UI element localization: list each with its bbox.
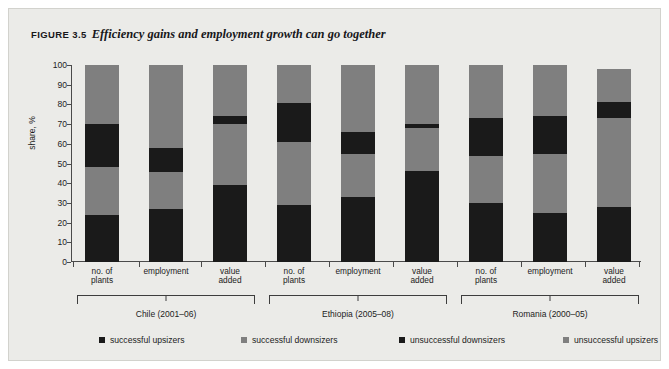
y-axis-label: share, % (27, 93, 37, 173)
stacked-bar (469, 65, 503, 262)
stacked-bar (149, 65, 183, 262)
legend-swatch-icon (99, 337, 105, 343)
chart-legend: successful upsizerssuccessful downsizers… (31, 335, 645, 351)
figure-caption: Efficiency gains and employment growth c… (92, 27, 386, 41)
legend-item: successful upsizers (99, 335, 185, 345)
x-axis-labels: no. ofplantsemploymentvalueaddedno. ofpl… (71, 267, 641, 293)
legend-item: unsuccessful downsizers (399, 335, 505, 345)
legend-item: successful downsizers (241, 335, 338, 345)
bar-segment (85, 215, 119, 262)
bar-segment (277, 65, 311, 103)
plot-axes: 0102030405060708090100 (71, 65, 641, 262)
bar-segment (469, 156, 503, 203)
bar-segment (341, 197, 375, 262)
bar-segment (213, 185, 247, 262)
y-tick-label: 40 (37, 179, 67, 188)
group-bracket (269, 295, 447, 304)
bar-segment (597, 102, 631, 118)
figure-number: FIGURE 3.5 (31, 29, 87, 40)
y-tick-label: 100 (37, 61, 67, 70)
bar-segment (597, 69, 631, 102)
bar-segment (341, 154, 375, 197)
legend-label: successful upsizers (110, 335, 185, 345)
bar-segment (213, 65, 247, 116)
stacked-bar (213, 65, 247, 262)
y-tick-label: 60 (37, 140, 67, 149)
legend-label: successful downsizers (252, 335, 338, 345)
x-axis-label: no. ofplants (263, 267, 325, 286)
x-axis-label: no. ofplants (455, 267, 517, 286)
bar-segment (597, 118, 631, 207)
bar-segment (469, 65, 503, 118)
bar-segment (405, 171, 439, 262)
y-tick-label: 0 (37, 258, 67, 267)
bracket-tick (550, 296, 551, 301)
y-tick-mark (67, 262, 71, 263)
legend-swatch-icon (399, 337, 405, 343)
group-label: Ethiopia (2005–08) (278, 309, 438, 319)
stacked-bar (341, 65, 375, 262)
x-axis-label: employment (519, 267, 581, 276)
x-axis-label: valueadded (391, 267, 453, 286)
bar-segment (341, 132, 375, 154)
group-bracket (461, 295, 639, 304)
x-axis-label: employment (327, 267, 389, 276)
legend-swatch-icon (241, 337, 247, 343)
bar-segment (213, 124, 247, 185)
x-axis-label: valueadded (583, 267, 645, 286)
bracket-tick (358, 296, 359, 301)
stacked-bar (405, 65, 439, 262)
bar-segment (405, 65, 439, 124)
bar-segment (469, 203, 503, 262)
group-brackets: Chile (2001–06)Ethiopia (2005–08)Romania… (71, 295, 641, 329)
stacked-bar (85, 65, 119, 262)
bar-series-container (71, 65, 641, 262)
bar-segment (533, 154, 567, 213)
bar-segment (341, 65, 375, 132)
bar-segment (469, 118, 503, 155)
bar-segment (149, 172, 183, 208)
y-tick-label: 90 (37, 80, 67, 89)
y-tick-label: 80 (37, 100, 67, 109)
stacked-bar (277, 65, 311, 262)
bar-segment (149, 65, 183, 148)
bar-segment (277, 205, 311, 262)
x-axis-label: no. ofplants (71, 267, 133, 286)
y-tick-label: 50 (37, 159, 67, 168)
legend-label: unsuccessful upsizers (574, 335, 658, 345)
bar-segment (405, 124, 439, 128)
figure-title: FIGURE 3.5Efficiency gains and employmen… (31, 27, 386, 42)
legend-item: unsuccessful upsizers (563, 335, 658, 345)
bar-segment (213, 116, 247, 124)
group-label: Romania (2000–05) (470, 309, 630, 319)
bar-segment (533, 116, 567, 153)
y-tick-label: 10 (37, 238, 67, 247)
bar-segment (277, 142, 311, 205)
legend-swatch-icon (563, 337, 569, 343)
group-bracket (77, 295, 255, 304)
x-axis-label: employment (135, 267, 197, 276)
x-axis-label: valueadded (199, 267, 261, 286)
y-tick-label: 70 (37, 120, 67, 129)
bar-segment (533, 213, 567, 262)
bar-segment (149, 148, 183, 173)
y-tick-label: 30 (37, 199, 67, 208)
bar-segment (597, 207, 631, 262)
group-label: Chile (2001–06) (86, 309, 246, 319)
bar-segment (85, 167, 119, 214)
bar-segment (277, 103, 311, 141)
bar-segment (85, 65, 119, 124)
bar-segment (405, 128, 439, 171)
bar-segment (85, 124, 119, 167)
y-tick-label: 20 (37, 218, 67, 227)
bar-segment (533, 65, 567, 116)
figure-panel: FIGURE 3.5Efficiency gains and employmen… (8, 8, 661, 361)
stacked-bar (597, 69, 631, 262)
bar-segment (149, 209, 183, 262)
bracket-tick (166, 296, 167, 301)
stacked-bar (533, 65, 567, 262)
chart-area: share, % 0102030405060708090100 no. ofpl… (31, 55, 643, 355)
legend-label: unsuccessful downsizers (410, 335, 505, 345)
